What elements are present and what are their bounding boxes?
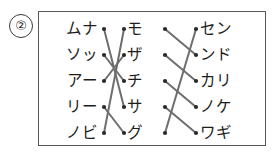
connector-dot-middle-left-3 bbox=[122, 79, 126, 83]
connector-dot-right-4 bbox=[194, 105, 198, 109]
connector-dot-middle-left-1 bbox=[122, 27, 126, 31]
connector-dot-right-5 bbox=[194, 131, 198, 135]
left-item-5: ノビ bbox=[66, 122, 98, 144]
connector-dot-right-1 bbox=[194, 27, 198, 31]
middle-item-4: サ bbox=[127, 96, 143, 118]
connector-dot-middle-left-2 bbox=[122, 53, 126, 57]
item-number-badge: ② bbox=[9, 14, 33, 38]
left-item-4: リー bbox=[66, 96, 98, 118]
middle-item-5: グ bbox=[127, 122, 143, 144]
connector-dot-left-5 bbox=[102, 131, 106, 135]
left-item-2: ソッ bbox=[66, 44, 98, 66]
connector-dot-left-2 bbox=[102, 53, 106, 57]
middle-item-3: チ bbox=[127, 70, 143, 92]
right-item-2: ンド bbox=[200, 44, 232, 66]
right-item-5: ワギ bbox=[200, 122, 232, 144]
left-item-1: ムナ bbox=[66, 18, 98, 40]
left-item-3: アー bbox=[67, 70, 98, 92]
connector-dot-left-4 bbox=[102, 105, 106, 109]
middle-item-1: モ bbox=[127, 18, 143, 40]
connector-dot-middle-left-5 bbox=[122, 131, 126, 135]
middle-item-2: ザ bbox=[127, 44, 143, 66]
right-item-4: ノケ bbox=[200, 96, 232, 118]
connector-dot-left-3 bbox=[102, 79, 106, 83]
middle-column: モ ザ チ サ グ bbox=[127, 0, 183, 135]
right-column: セン ンド カリ ノケ ワギ bbox=[200, 0, 256, 135]
connector-dot-middle-left-4 bbox=[122, 105, 126, 109]
connector-dot-left-1 bbox=[102, 27, 106, 31]
worksheet-item: ② ムナ ソッ アー リー ノビ モ ザ チ サ グ セン ンド カリ ノケ ワ… bbox=[0, 0, 277, 160]
connector-dot-right-2 bbox=[194, 53, 198, 57]
connector-dot-right-3 bbox=[194, 79, 198, 83]
left-column: ムナ ソッ アー リー ノビ bbox=[42, 0, 98, 135]
right-item-3: カリ bbox=[200, 70, 232, 92]
right-item-1: セン bbox=[200, 18, 232, 40]
